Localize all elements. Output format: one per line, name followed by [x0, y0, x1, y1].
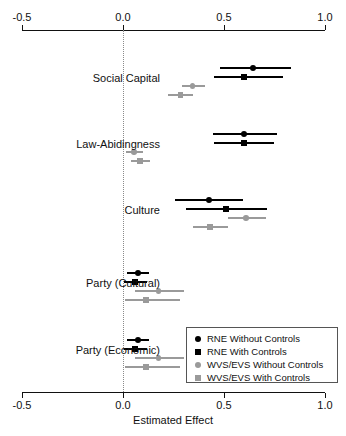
x-tick-bottom-3 [325, 393, 326, 398]
legend-label-0: RNE Without Controls [207, 334, 300, 344]
error-bar-3-4 [125, 366, 180, 368]
x-axis-spine-bottom [22, 392, 325, 393]
point-marker-2-2 [243, 215, 249, 221]
legend-item-1: RNE With Controls [195, 347, 287, 357]
error-bar-3-3 [125, 299, 180, 301]
category-label-3: Party (Cultural) [0, 277, 168, 289]
point-marker-3-3 [143, 297, 149, 303]
point-marker-1-0 [241, 74, 247, 80]
x-tick-label-bottom-2: 0.5 [216, 399, 231, 411]
x-tick-label-top-3: 1.0 [317, 11, 332, 23]
point-marker-0-3 [135, 270, 141, 276]
x-tick-top-2 [224, 25, 225, 30]
x-tick-top-3 [325, 25, 326, 30]
point-marker-2-1 [131, 149, 137, 155]
legend-item-3: WVS/EVS With Controls [195, 373, 310, 383]
coefficient-plot: -0.50.00.51.0-0.50.00.51.0 Social Capita… [0, 0, 346, 436]
legend-item-2: WVS/EVS Without Controls [195, 360, 323, 370]
point-marker-3-2 [207, 224, 213, 230]
category-label-1: Law-Abidingness [0, 138, 168, 150]
point-marker-2-3 [156, 288, 162, 294]
x-axis-title: Estimated Effect [0, 414, 346, 426]
legend-item-0: RNE Without Controls [195, 334, 300, 344]
x-tick-label-top-1: 0.0 [115, 11, 130, 23]
point-marker-2-4 [156, 355, 162, 361]
point-marker-0-1 [241, 131, 247, 137]
point-marker-0-4 [135, 337, 141, 343]
legend-marker-circle-0 [195, 336, 201, 342]
point-marker-0-0 [250, 65, 256, 71]
point-marker-3-1 [137, 158, 143, 164]
x-tick-label-top-2: 0.5 [216, 11, 231, 23]
legend-marker-square-3 [195, 375, 201, 381]
point-marker-1-2 [223, 206, 229, 212]
legend-marker-circle-2 [195, 362, 201, 368]
legend-label-3: WVS/EVS With Controls [207, 373, 310, 383]
x-tick-label-bottom-0: -0.5 [13, 399, 32, 411]
x-tick-label-bottom-3: 1.0 [317, 399, 332, 411]
x-tick-bottom-2 [224, 393, 225, 398]
x-tick-bottom-0 [22, 393, 23, 398]
category-label-0: Social Capital [0, 72, 168, 84]
point-marker-1-1 [241, 140, 247, 146]
category-label-4: Party (Economic) [0, 344, 168, 356]
legend-label-1: RNE With Controls [207, 347, 287, 357]
x-tick-label-bottom-1: 0.0 [115, 399, 130, 411]
point-marker-3-4 [143, 364, 149, 370]
point-marker-2-0 [190, 83, 196, 89]
x-axis-spine-top [22, 30, 325, 31]
x-tick-top-0 [22, 25, 23, 30]
x-tick-label-top-0: -0.5 [13, 11, 32, 23]
legend-marker-square-1 [195, 349, 201, 355]
category-label-2: Culture [0, 204, 168, 216]
x-tick-bottom-1 [123, 393, 124, 398]
point-marker-3-0 [178, 92, 184, 98]
legend: RNE Without ControlsRNE With ControlsWVS… [186, 327, 338, 383]
point-marker-0-2 [206, 197, 212, 203]
error-bar-1-0 [214, 76, 283, 78]
legend-label-2: WVS/EVS Without Controls [207, 360, 323, 370]
